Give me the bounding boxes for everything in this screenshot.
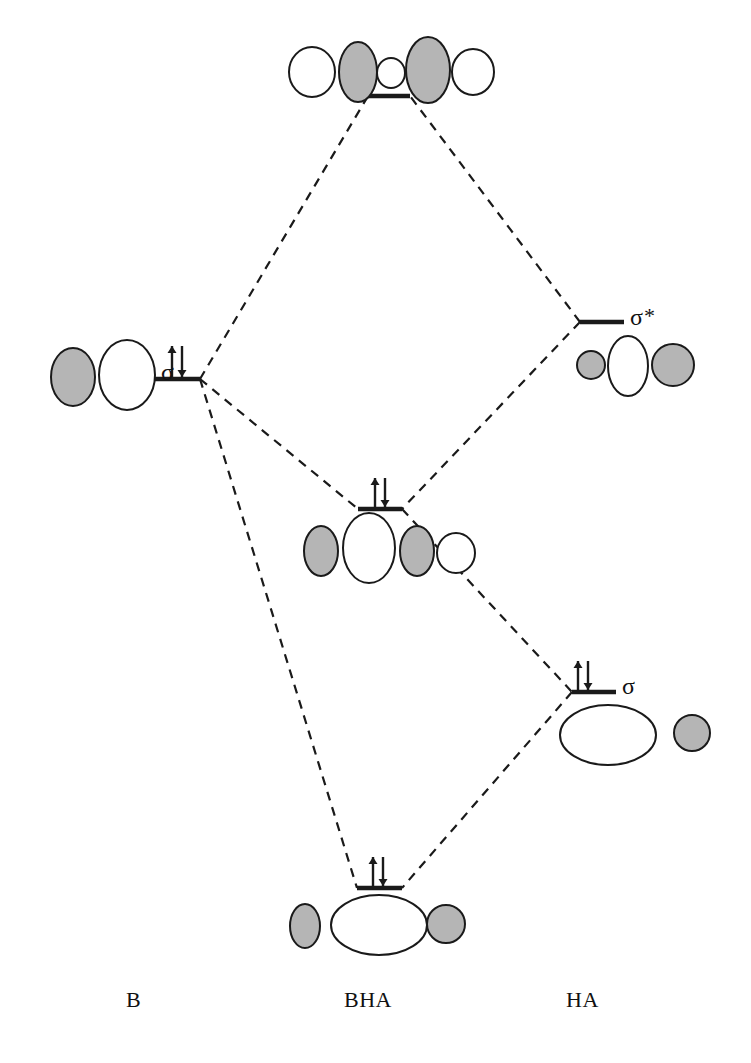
- orbital-label-ha-sigma: σ: [622, 673, 635, 700]
- correlation-line-ha-sigma-star-to-bha-nonbonding: [402, 322, 580, 509]
- mo-diagram-canvas: [0, 0, 751, 1063]
- orbital-lobe-sigma-star-right-1: [608, 336, 648, 396]
- sigma-glyph-left: σ: [161, 359, 174, 385]
- orbital-lobe-bonding-bottom-2: [427, 905, 465, 943]
- orbital-lobe-antibonding-top-3: [406, 37, 450, 103]
- orbital-lobes-layer: [51, 37, 710, 955]
- correlation-line-b-sigma-to-bha-bonding: [200, 379, 357, 888]
- spin-down-head-ha-sigma: [584, 683, 593, 690]
- correlation-line-b-sigma-to-bha-nonbonding: [200, 379, 358, 509]
- orbital-lobe-sigma-right-1: [674, 715, 710, 751]
- orbital-label-ha-sigma-star: σ*: [630, 303, 655, 331]
- correlation-line-b-sigma-to-bha-antibonding: [200, 96, 368, 379]
- orbital-lobe-sigma-right-0: [560, 705, 656, 765]
- orbital-lobe-antibonding-top-1: [339, 42, 377, 102]
- correlation-line-ha-sigma-star-to-bha-antibonding: [410, 96, 580, 322]
- spin-down-head-b-sigma: [178, 370, 187, 377]
- sigma-glyph-right: σ: [622, 673, 635, 699]
- orbital-lobe-nonbonding-middle-1: [343, 513, 395, 583]
- orbital-lobe-antibonding-top-0: [289, 47, 335, 97]
- orbital-label-b-sigma: σ: [161, 359, 174, 386]
- spin-up-head-bha-bonding: [369, 857, 378, 864]
- orbital-lobe-nonbonding-middle-2: [400, 526, 434, 576]
- column-label-bha: BHA: [344, 987, 392, 1013]
- correlation-lines-layer: [200, 96, 580, 888]
- spin-up-head-b-sigma: [168, 346, 177, 353]
- spin-up-head-ha-sigma: [574, 661, 583, 668]
- orbital-lobe-sigma-left-0: [51, 348, 95, 406]
- electron-pair-bha-bonding: [369, 857, 388, 886]
- electron-pair-ha-sigma: [574, 661, 593, 690]
- spin-down-head-bha-bonding: [379, 879, 388, 886]
- orbital-lobe-bonding-bottom-1: [331, 895, 427, 955]
- orbital-lobe-nonbonding-middle-3: [437, 533, 475, 573]
- electron-arrows-layer: [168, 346, 593, 886]
- orbital-lobe-sigma-star-right-0: [577, 351, 605, 379]
- orbital-lobe-sigma-left-1: [99, 340, 155, 410]
- orbital-lobe-antibonding-top-2: [377, 58, 405, 88]
- energy-levels-layer: [152, 96, 624, 888]
- electron-pair-bha-nonbonding: [371, 478, 390, 507]
- spin-down-head-bha-nonbonding: [381, 500, 390, 507]
- orbital-lobe-sigma-star-right-2: [652, 344, 694, 386]
- sigma-glyph-right-star: σ: [630, 304, 643, 330]
- orbital-lobe-antibonding-top-4: [452, 49, 494, 95]
- correlation-line-ha-sigma-to-bha-bonding: [402, 692, 572, 888]
- column-label-ha: HA: [566, 987, 599, 1013]
- asterisk-glyph: *: [644, 303, 655, 328]
- mo-diagram: σ σ* σ B BHA HA: [0, 0, 751, 1063]
- orbital-lobe-nonbonding-middle-0: [304, 526, 338, 576]
- orbital-lobe-bonding-bottom-0: [290, 904, 320, 948]
- spin-up-head-bha-nonbonding: [371, 478, 380, 485]
- column-label-b: B: [126, 987, 141, 1013]
